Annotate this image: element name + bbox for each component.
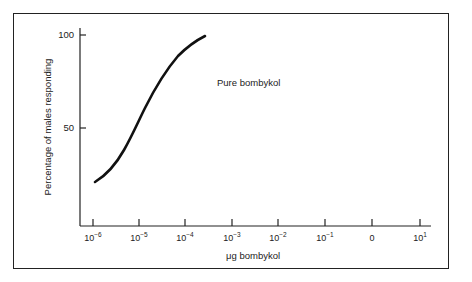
x-ticks: [93, 219, 420, 226]
curve-annotation: Pure bombykol: [217, 77, 280, 88]
x-tick-label: 0: [369, 231, 374, 243]
x-tick-label: 10−2: [269, 231, 286, 243]
x-tick-label: 10−6: [84, 231, 101, 243]
y-axis-label: Percentage of males responding: [42, 59, 53, 196]
dose-response-curve: [95, 36, 205, 182]
x-tick-label: 10−5: [130, 231, 147, 243]
x-tick-label: 10−1: [316, 231, 333, 243]
x-tick-label: 101: [413, 231, 427, 243]
x-tick-label: 10−4: [176, 231, 193, 243]
x-axis-label: μg bombykol: [226, 250, 280, 261]
x-tick-label: 10−3: [223, 231, 240, 243]
y-tick-label-100: 100: [44, 29, 74, 40]
